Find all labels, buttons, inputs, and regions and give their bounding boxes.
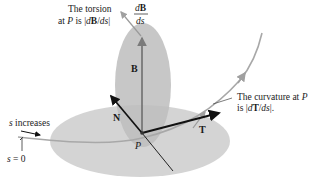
label-P: P <box>134 140 141 151</box>
s-increases-arrow <box>21 131 40 135</box>
curvature-line-1: The curvature at P <box>237 92 308 102</box>
label-N: N <box>113 112 121 123</box>
curvature-line-2: is |dT/ds|. <box>237 103 274 113</box>
curvature-leader <box>213 98 232 104</box>
svg-text:ds: ds <box>136 16 145 26</box>
svg-text:dB: dB <box>135 3 147 13</box>
label-B: B <box>131 63 138 74</box>
frenet-frame-diagram: B N T P The torsion at P is |dB/ds| dB d… <box>0 0 319 178</box>
point-P <box>140 131 144 135</box>
label-T: T <box>199 124 206 135</box>
s-increases-label: s increases <box>9 118 50 128</box>
s-zero-label: s = 0 <box>7 154 26 164</box>
diagram-canvas: B N T P The torsion at P is |dB/ds| dB d… <box>0 0 319 178</box>
curve-direction-arrow <box>238 73 245 83</box>
torsion-line-2: at P is |dB/ds| <box>58 16 110 26</box>
dB-ds-fraction: dB ds <box>134 3 148 26</box>
torsion-line-1: The torsion <box>68 4 112 14</box>
s-zero-tick <box>20 137 23 151</box>
